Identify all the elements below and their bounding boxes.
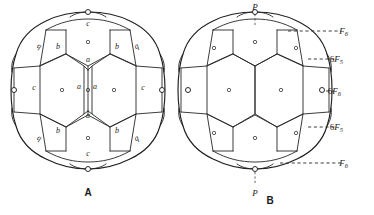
panel-a-edge-spur-left-lower	[40, 114, 66, 127]
panel-b-edge-spur-left-lower	[207, 114, 233, 127]
vertex-dot-right-equator	[320, 88, 325, 93]
annotation-6f6-equator-subscript: 6	[338, 90, 342, 97]
panel-a-face-outer-upper-right	[130, 30, 162, 68]
face-label-b-lower-right: b	[115, 126, 119, 135]
panel-a-face-equator-right	[92, 54, 136, 127]
annotation-6f5-lower: 6F5	[330, 122, 343, 133]
vertex-dot-left-equator	[12, 88, 17, 93]
face-label-b-rot-lower-right: b	[133, 134, 140, 144]
panel-b-annotation-labels: F66F56F66F5F6	[328, 26, 349, 169]
panel-a-edge-spur-right-upper	[110, 54, 136, 66]
panel-b-face-bottom-hexagon	[233, 115, 277, 151]
annotation-6f6-equator: 6F6	[328, 86, 342, 97]
face-label-b-upper-left: b	[56, 42, 60, 51]
pole-label-top: P	[251, 2, 258, 12]
face-label-c-top: c	[86, 19, 90, 28]
face-center-dot-right	[112, 88, 115, 91]
vertex-dot-top-pole	[86, 10, 91, 15]
face-label-b-rot-upper-left: b	[35, 42, 42, 52]
panel-b-face-outer-lower-right	[297, 112, 329, 151]
panel-b: PP F66F56F66F5F6 B	[178, 2, 349, 206]
vertex-dot-right-equator	[160, 88, 165, 93]
panel-a-caption: A	[84, 187, 91, 198]
polyhedron-figure-svg: cbbbbaaaaccbbbbc A	[0, 0, 374, 215]
figure-root: cbbbbaaaaccbbbbc A	[0, 0, 374, 215]
face-center-dot-left	[60, 88, 63, 91]
panel-b-edge-spur-right-upper	[277, 54, 303, 66]
face-center-dot-bottom	[253, 136, 256, 139]
face-label-b-rot-lower-left: b	[35, 134, 42, 144]
annotation-f6-bottom: F6	[338, 158, 349, 169]
face-label-b-lower-left: b	[56, 126, 60, 135]
panel-b-face-outer-lower-left	[181, 112, 213, 151]
panel-b-caption: B	[266, 195, 273, 206]
face-label-c-right: c	[141, 83, 145, 92]
annotation-6f5-upper: 6F5	[330, 54, 343, 65]
panel-a-edge-spur-right-lower	[110, 114, 136, 127]
pole-label-bottom: P	[251, 188, 258, 198]
panel-a-face-outer-lower-right	[130, 112, 162, 151]
panel-a-edge-center-upper-right-diag	[88, 66, 92, 70]
face-label-a-lower: a	[86, 111, 90, 120]
face-center-dot-lower-right	[294, 131, 297, 134]
annotation-f6-top-subscript: 6	[345, 30, 349, 37]
face-center-dot-lower-left	[212, 131, 215, 134]
face-label-b-rot-upper-right: b	[133, 42, 140, 52]
annotation-6f5-lower-subscript: 5	[340, 126, 343, 133]
panel-b-edge-spur-right-lower	[277, 114, 303, 127]
face-center-dot-top	[253, 40, 256, 43]
panel-b-face-outer-upper-left	[181, 30, 213, 68]
face-label-c-left: c	[32, 83, 36, 92]
face-label-c-bottom: c	[86, 149, 90, 158]
annotation-f6-bottom-subscript: 6	[345, 162, 349, 169]
panel-b-edge-bottom-cap	[213, 151, 297, 162]
annotation-6f5-upper-subscript: 5	[340, 58, 343, 65]
vertex-dot-bottom-pole	[253, 167, 258, 172]
panel-a-face-outer-lower-left	[14, 112, 46, 151]
face-label-a-center-right: a	[93, 82, 97, 91]
panel-b-edge-spur-left-upper	[207, 54, 233, 66]
panel-a-edge-spur-left-upper	[40, 54, 66, 66]
panel-b-face-outer-upper-right	[297, 30, 329, 68]
panel-a-edge-center-upper-left-diag	[84, 66, 88, 70]
face-center-dot-right	[279, 88, 282, 91]
panel-a: cbbbbaaaaccbbbbc A	[11, 10, 165, 199]
vertex-dot-left-equator	[186, 88, 191, 93]
vertex-dot-bottom-pole	[86, 167, 91, 172]
face-center-dot-upper-left	[212, 46, 215, 49]
face-label-a-center-left: a	[77, 82, 81, 91]
face-center-dot-upper-right	[294, 46, 297, 49]
face-center-dot-top	[86, 40, 89, 43]
face-label-a-upper: a	[86, 55, 90, 64]
panel-a-face-bottom-hexagon	[66, 115, 110, 151]
panel-b-face-top-hexagon	[233, 30, 277, 66]
annotation-f6-top: F6	[338, 26, 349, 37]
face-label-b-upper-right: b	[115, 42, 119, 51]
face-center-dot-left	[227, 88, 230, 91]
face-center-dot-bottom	[86, 136, 89, 139]
